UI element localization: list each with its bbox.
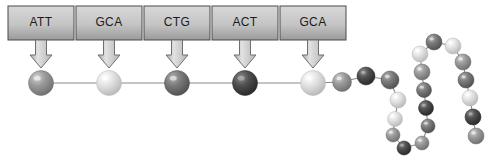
sphere-specular-highlight <box>306 76 313 81</box>
translation-arrow <box>98 40 120 68</box>
sphere-body <box>414 64 430 80</box>
diagram-canvas: ATTGCACTGACTGCA <box>0 0 492 168</box>
sphere-specular-highlight <box>468 112 472 115</box>
amino-acid-sphere <box>426 34 442 50</box>
amino-acid-sphere <box>97 71 122 96</box>
sphere-specular-highlight <box>400 144 404 147</box>
amino-acid-sphere <box>414 64 430 80</box>
sphere-body <box>415 136 429 150</box>
amino-acid-sphere <box>233 71 258 96</box>
amino-acid-sphere <box>415 136 429 150</box>
sphere-specular-highlight <box>336 76 341 80</box>
sphere-specular-highlight <box>393 95 397 98</box>
amino-acid-sphere <box>455 54 471 70</box>
sphere-specular-highlight <box>361 71 366 75</box>
codon-box[interactable] <box>76 6 142 40</box>
sphere-body <box>417 83 432 98</box>
sphere-body <box>233 71 258 96</box>
sphere-specular-highlight <box>471 131 475 134</box>
amino-acid-sphere <box>357 67 375 85</box>
sphere-body <box>419 101 434 116</box>
sphere-body <box>333 73 352 92</box>
amino-acid-sphere <box>390 92 406 108</box>
sphere-body <box>426 34 442 50</box>
sphere-body <box>455 54 471 70</box>
sphere-body <box>421 119 435 133</box>
amino-acid-sphere <box>388 112 403 127</box>
sphere-specular-highlight <box>170 76 177 81</box>
amino-acid-sphere <box>462 90 478 106</box>
amino-acid-sphere <box>419 101 434 116</box>
sphere-specular-highlight <box>417 67 421 70</box>
sphere-body <box>390 92 406 108</box>
sphere-specular-highlight <box>448 41 452 44</box>
codon-box-body <box>76 6 142 40</box>
codon-box[interactable] <box>280 6 346 40</box>
sphere-body <box>97 71 122 96</box>
sphere-specular-highlight <box>424 122 428 125</box>
translation-arrow <box>166 40 188 68</box>
amino-acid-sphere <box>412 46 428 62</box>
amino-acid-sphere <box>468 128 484 144</box>
sphere-specular-highlight <box>385 75 390 79</box>
sphere-body <box>462 90 478 106</box>
sphere-body <box>465 109 481 125</box>
sphere-body <box>381 71 399 89</box>
sphere-specular-highlight <box>418 139 422 142</box>
amino-acid-sphere <box>386 128 400 142</box>
amino-acid-sphere <box>165 71 190 96</box>
codon-box[interactable] <box>144 6 210 40</box>
sphere-specular-highlight <box>461 75 465 78</box>
sphere-body <box>386 128 400 142</box>
sphere-body <box>29 71 54 96</box>
arrow-layer <box>30 40 324 68</box>
amino-acid-sphere <box>458 72 474 88</box>
amino-acid-sphere <box>465 109 481 125</box>
amino-acid-sphere <box>29 71 54 96</box>
codon-box-body <box>212 6 278 40</box>
amino-acid-sphere <box>301 71 326 96</box>
sphere-body <box>397 141 411 155</box>
codon-box[interactable] <box>8 6 74 40</box>
sphere-specular-highlight <box>422 104 426 107</box>
amino-acid-sphere <box>381 71 399 89</box>
translation-arrow <box>302 40 324 68</box>
sphere-body <box>301 71 326 96</box>
sphere-specular-highlight <box>420 86 424 89</box>
sphere-body <box>458 72 474 88</box>
amino-acid-sphere <box>333 73 352 92</box>
sphere-specular-highlight <box>102 76 109 81</box>
translation-arrow <box>234 40 256 68</box>
codon-box[interactable] <box>212 6 278 40</box>
sphere-body <box>445 38 461 54</box>
amino-acid-sphere <box>445 38 461 54</box>
codon-box-body <box>8 6 74 40</box>
sphere-body <box>468 128 484 144</box>
translation-arrow <box>30 40 52 68</box>
codon-box-body <box>280 6 346 40</box>
translation-diagram <box>0 0 492 168</box>
sphere-specular-highlight <box>465 93 469 96</box>
sphere-specular-highlight <box>429 37 433 40</box>
sphere-body <box>388 112 403 127</box>
amino-acid-sphere <box>397 141 411 155</box>
amino-acid-sphere <box>417 83 432 98</box>
sphere-specular-highlight <box>391 115 395 118</box>
sphere-specular-highlight <box>415 49 419 52</box>
sphere-specular-highlight <box>458 57 462 60</box>
sphere-specular-highlight <box>238 76 245 81</box>
sphere-body <box>165 71 190 96</box>
amino-acid-layer <box>29 34 485 155</box>
amino-acid-sphere <box>421 119 435 133</box>
codon-box-layer <box>8 6 346 40</box>
sphere-specular-highlight <box>34 76 41 81</box>
codon-box-body <box>144 6 210 40</box>
sphere-body <box>357 67 375 85</box>
sphere-specular-highlight <box>389 131 393 134</box>
sphere-body <box>412 46 428 62</box>
